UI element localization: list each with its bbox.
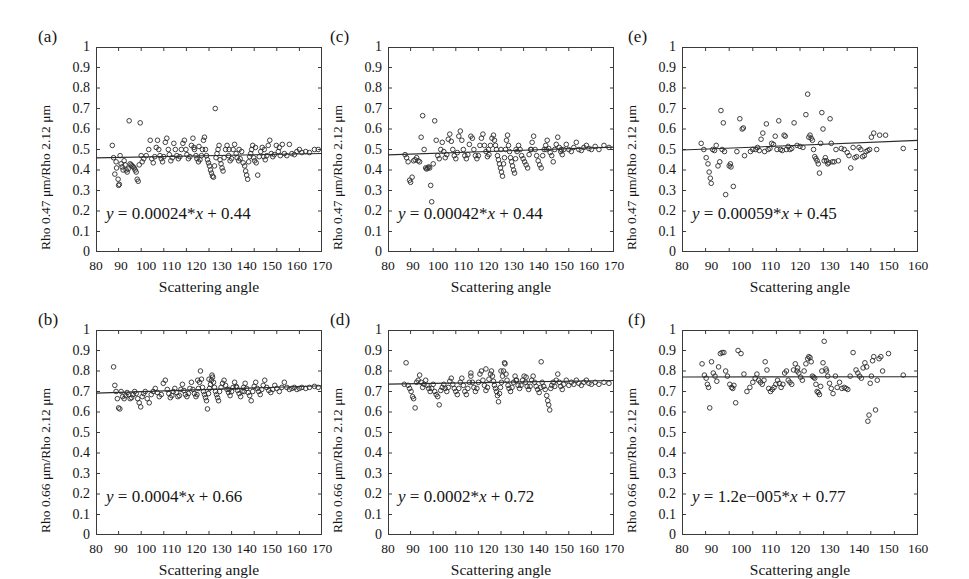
scatter-point <box>232 142 237 147</box>
x-tick-label: 90 <box>705 542 719 556</box>
y-tick-label: 0.7 <box>50 102 90 116</box>
y-tick-label: 0.6 <box>636 122 676 136</box>
scatter-point <box>469 371 474 376</box>
scatter-point <box>755 372 760 377</box>
scatter-point <box>708 176 713 181</box>
scatter-point <box>811 147 816 152</box>
scatter-point <box>804 362 809 367</box>
y-tick-label: 0.3 <box>50 184 90 198</box>
y-axis-title-a: Rho 0.47 μm/Rho 2.12 μm <box>38 105 54 250</box>
y-tick-label: 0.6 <box>636 405 676 419</box>
y-tick-label: 0 <box>50 245 90 259</box>
scatter-point <box>706 162 711 167</box>
x-axis-title-f: Scattering angle <box>682 561 918 579</box>
scatter-point <box>216 398 221 403</box>
scatter-point <box>544 393 549 398</box>
scatter-point <box>204 398 209 403</box>
scatter-point <box>723 369 728 374</box>
y-tick-label: 0.3 <box>342 467 382 481</box>
scatter-point <box>866 419 871 424</box>
y-tick-label: 0.6 <box>342 122 382 136</box>
scatter-point <box>197 144 202 149</box>
scatter-point <box>447 132 452 137</box>
y-tick-label: 0.9 <box>342 61 382 75</box>
y-tick-label: 0.2 <box>342 487 382 501</box>
x-tick-label: 150 <box>554 542 574 556</box>
scatter-point <box>551 160 556 165</box>
y-tick-label: 1 <box>342 40 382 54</box>
scatter-point <box>211 175 216 180</box>
scatter-point <box>450 147 455 152</box>
x-tick-label: 130 <box>211 542 231 556</box>
scatter-point <box>215 395 220 400</box>
scatter-point <box>110 143 115 148</box>
scatter-point <box>709 359 714 364</box>
y-tick-label: 0.5 <box>342 426 382 440</box>
scatter-point <box>437 403 442 408</box>
scatter-point <box>773 134 778 139</box>
scatter-point <box>422 147 427 152</box>
x-tick-label: 130 <box>503 259 523 273</box>
scatter-point <box>460 376 465 381</box>
scatter-point <box>205 407 210 412</box>
scatter-point <box>253 380 258 385</box>
scatter-point <box>250 389 255 394</box>
x-tick-label: 160 <box>579 542 599 556</box>
y-axis-ticks-c: 10.90.80.70.60.50.40.30.20.10 <box>342 47 382 252</box>
scatter-point <box>510 385 515 390</box>
scatter-point <box>822 339 827 344</box>
scatter-point <box>504 372 509 377</box>
x-tick-label: 160 <box>579 259 599 273</box>
scatter-point <box>282 380 287 385</box>
y-tick-label: 0.6 <box>50 122 90 136</box>
scatter-point <box>545 138 550 143</box>
scatter-point <box>172 141 177 146</box>
scatter-point <box>821 127 826 132</box>
scatter-point <box>801 145 806 150</box>
y-tick-label: 0.2 <box>50 487 90 501</box>
scatter-point <box>179 387 184 392</box>
scatter-point <box>212 164 217 169</box>
scatter-point <box>764 122 769 127</box>
y-tick-label: 0.3 <box>636 467 676 481</box>
fit-equation-d: y = 0.0002*x + 0.72 <box>398 487 534 507</box>
x-tick-label: 160 <box>287 542 307 556</box>
scatter-point <box>113 383 118 388</box>
scatter-point <box>267 138 272 143</box>
y-tick-label: 0.1 <box>342 225 382 239</box>
x-tick-label: 140 <box>849 542 869 556</box>
fit-equation-a: y = 0.00024*x + 0.44 <box>106 204 251 224</box>
scatter-point <box>597 382 602 387</box>
y-tick-label: 0.5 <box>636 143 676 157</box>
x-tick-label: 120 <box>478 259 498 273</box>
y-axis-title-f: Rho 0.66 μm/Rho 2.12 μm <box>624 388 640 533</box>
scatter-point <box>875 378 880 383</box>
scatter-point <box>869 374 874 379</box>
x-tick-label: 140 <box>237 259 257 273</box>
y-tick-label: 0.8 <box>636 364 676 378</box>
scatter-point <box>776 119 781 124</box>
scatter-point <box>707 406 712 411</box>
scatter-point <box>155 138 160 143</box>
scatter-point <box>555 372 560 377</box>
x-tick-label: 150 <box>878 542 898 556</box>
x-tick-label: 170 <box>312 542 332 556</box>
x-tick-label: 80 <box>89 259 103 273</box>
scatter-point <box>742 153 747 158</box>
y-axis-ticks-f: 10.90.80.70.60.50.40.30.20.10 <box>636 330 676 535</box>
x-tick-label: 120 <box>186 259 206 273</box>
scatter-point <box>138 405 143 410</box>
y-axis-title-d: Rho 0.66 μm/Rho 2.12 μm <box>330 388 346 533</box>
scatter-point <box>287 142 292 147</box>
x-tick-label: 140 <box>529 542 549 556</box>
scatter-point <box>818 141 823 146</box>
scatter-point <box>547 408 552 413</box>
scatter-point <box>206 161 211 166</box>
scatter-point <box>119 389 124 394</box>
x-tick-label: 140 <box>849 259 869 273</box>
y-tick-label: 0.1 <box>636 508 676 522</box>
y-tick-label: 0.8 <box>636 81 676 95</box>
y-tick-label: 0.1 <box>636 225 676 239</box>
scatter-point <box>564 142 569 147</box>
y-axis-title-c: Rho 0.47 μm/Rho 2.12 μm <box>330 105 346 250</box>
